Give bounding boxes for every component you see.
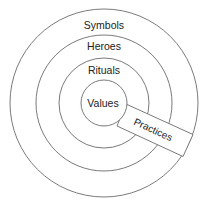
rituals-label: Rituals	[88, 64, 120, 76]
values-label: Values	[87, 97, 118, 109]
heroes-label: Heroes	[87, 40, 121, 52]
onion-diagram: Symbols Heroes Rituals Values Practices	[0, 0, 208, 207]
symbols-label: Symbols	[84, 19, 124, 31]
